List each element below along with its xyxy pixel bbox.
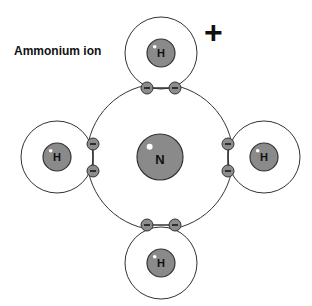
hydrogen-right-label: H xyxy=(260,151,268,163)
highlight-icon xyxy=(147,144,153,150)
highlight-icon xyxy=(256,149,260,153)
nitrogen-label: N xyxy=(155,152,164,167)
ammonium-ion-diagram: NHHHH xyxy=(0,0,312,306)
hydrogen-left-label: H xyxy=(53,151,61,163)
highlight-icon xyxy=(153,255,157,259)
hydrogen-top-label: H xyxy=(157,47,165,59)
highlight-icon xyxy=(153,45,157,49)
highlight-icon xyxy=(49,149,53,153)
hydrogen-bottom-label: H xyxy=(157,257,165,269)
